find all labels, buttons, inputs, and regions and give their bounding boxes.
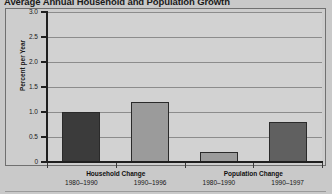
bottom-rule — [5, 191, 326, 192]
bar — [62, 112, 100, 162]
x-tick-mark — [185, 163, 186, 168]
bar — [269, 122, 307, 162]
x-axis-line — [46, 161, 323, 163]
y-tick-label: 3.0 — [12, 8, 38, 15]
gridline — [47, 12, 322, 13]
x-tick-mark — [47, 163, 48, 168]
x-tick-mark — [253, 163, 254, 168]
x-group-label: Population Change — [193, 170, 313, 178]
x-tick-mark — [116, 163, 117, 168]
x-tick-mark — [322, 163, 323, 168]
chart-figure: Average Annual Household and Population … — [0, 0, 332, 194]
gridline — [47, 37, 322, 38]
y-axis-title: Percent per Year — [19, 26, 26, 106]
bar — [131, 102, 169, 162]
x-group-label: Household Change — [56, 170, 176, 178]
y-axis-line — [46, 11, 48, 163]
chart-title: Average Annual Household and Population … — [4, 0, 328, 7]
y-tick-label: 1.0 — [12, 108, 38, 115]
x-category-label: 1990–1997 — [248, 179, 328, 187]
y-tick-label: 0 — [12, 158, 38, 165]
y-tick-label: 0.5 — [12, 133, 38, 140]
gridline — [47, 62, 322, 63]
gridline — [47, 87, 322, 88]
